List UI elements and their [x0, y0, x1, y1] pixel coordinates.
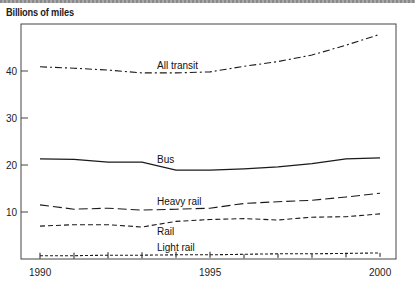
x-tick-1990: 1990	[29, 267, 52, 278]
x-tick-1995: 1995	[199, 267, 222, 278]
label-bus: Bus	[157, 154, 174, 165]
series-all-transit	[40, 34, 380, 73]
series-bus	[40, 158, 380, 170]
y-tick-20: 20	[6, 160, 18, 171]
x-tick-2000: 2000	[369, 267, 392, 278]
label-all-transit: All transit	[157, 60, 198, 71]
series-rail	[40, 214, 380, 227]
label-light-rail: Light rail	[157, 242, 195, 253]
label-heavy-rail: Heavy rail	[157, 196, 201, 207]
series-layer	[40, 34, 380, 258]
line-chart: 40 30 20 10 1990 1995 2000 All transit B…	[0, 0, 415, 282]
y-tick-10: 10	[6, 207, 18, 218]
y-axis	[21, 71, 28, 212]
plot-frame	[21, 24, 396, 259]
series-heavy-rail	[40, 193, 380, 210]
y-tick-30: 30	[6, 113, 18, 124]
label-rail: Rail	[157, 226, 174, 237]
y-tick-40: 40	[6, 66, 18, 77]
